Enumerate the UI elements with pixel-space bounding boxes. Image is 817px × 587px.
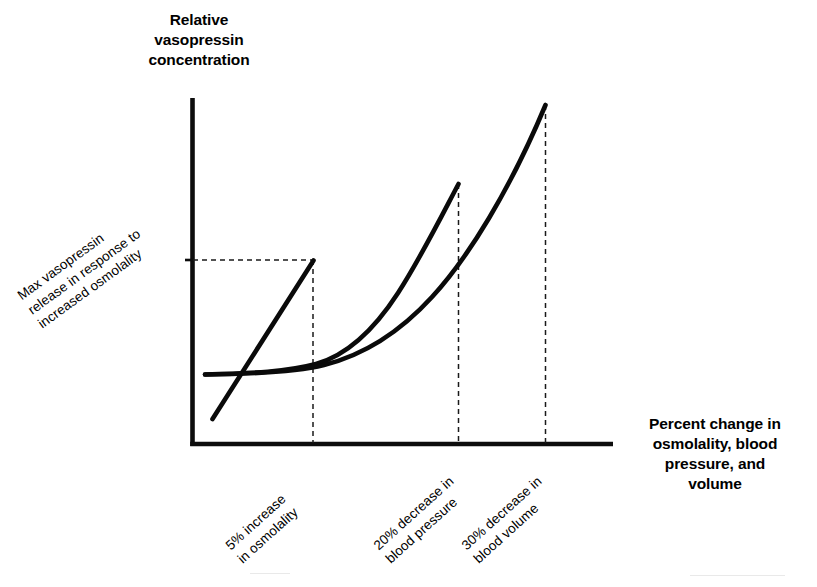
dashed-guides (193, 105, 546, 443)
curve-blood-volume (205, 105, 546, 375)
plot-area (0, 0, 817, 587)
vasopressin-chart-figure: Relative vasopressin concentration Perce… (0, 0, 817, 587)
scan-artifact-right (690, 575, 785, 576)
curve-osmolality (213, 261, 314, 420)
curve-blood-pressure (205, 184, 459, 375)
data-curves (205, 105, 546, 419)
scan-artifact-left (250, 573, 290, 574)
axes (185, 98, 613, 446)
